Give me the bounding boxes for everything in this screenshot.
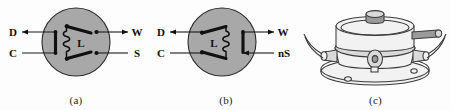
contact-node-top-a [54, 30, 58, 34]
caption-c: (c) [300, 94, 451, 106]
lug-left-cap-c [321, 52, 327, 60]
cable-left-c [304, 34, 322, 54]
side-connector-cap-c [435, 30, 441, 37]
front-port-bore-c [372, 56, 378, 63]
node-arm-lower-left-a [65, 57, 69, 61]
node-w-a [94, 30, 98, 34]
label-w-a: W [132, 26, 143, 38]
label-c-b: C [157, 47, 165, 59]
label-l-b: L [210, 37, 217, 49]
contact-node-bottom-a [54, 51, 58, 55]
bottom-tab-c [371, 67, 378, 72]
contact-node-top-b [241, 30, 245, 34]
label-c-a: C [9, 47, 17, 59]
node-d-b [200, 30, 204, 34]
figure-root: D C W S L (a) [0, 0, 451, 110]
panel-b: D C W nS L (b) [152, 0, 300, 110]
panel-c: (c) [300, 0, 451, 110]
lug-right-cap-c [423, 52, 429, 60]
disc-b [188, 8, 256, 76]
panel-a: D C W S L (a) [0, 0, 152, 110]
arrowhead-d-a [22, 29, 28, 34]
node-s-a [94, 51, 98, 55]
arrowhead-w-b [268, 29, 274, 34]
mount-hole-right-c [411, 69, 417, 73]
label-s-a: S [134, 47, 140, 59]
label-d-b: D [157, 26, 165, 38]
caption-a: (a) [0, 94, 152, 106]
label-ns-b: nS [278, 47, 290, 59]
label-w-b: W [278, 26, 289, 38]
top-boss-cap-c [366, 11, 384, 18]
mount-hole-left-c [345, 77, 352, 81]
arrowhead-d-b [170, 29, 176, 34]
arrowhead-w-a [122, 29, 128, 34]
node-c-b [200, 50, 204, 54]
disc-a [42, 8, 110, 76]
label-d-a: D [9, 26, 17, 38]
caption-b: (b) [152, 94, 300, 106]
node-arm-upper-left-a [65, 24, 69, 28]
label-l-a: L [77, 37, 84, 49]
